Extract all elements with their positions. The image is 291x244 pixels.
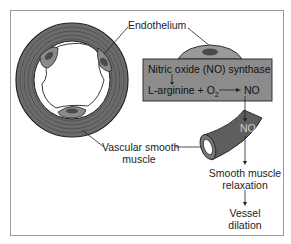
no-on-muscle-label: NO (240, 122, 256, 134)
dilation-label: Vessel dilation (215, 207, 275, 231)
reaction-product: NO (244, 84, 260, 96)
endothelium-label: Endothelium (128, 19, 186, 31)
reaction-reactants: L-arginine + O (148, 84, 215, 96)
vessel-cross-section (16, 23, 128, 137)
vascular-line2: muscle (102, 153, 176, 165)
vascular-line1: Vascular smooth (102, 141, 176, 153)
relax-line1: Smooth muscle (205, 167, 285, 179)
relaxation-label: Smooth muscle relaxation (205, 167, 285, 191)
cell-nucleus (202, 49, 218, 56)
smooth-muscle-tube (197, 110, 262, 162)
relax-line2: relaxation (205, 179, 285, 191)
dilation-line2: dilation (215, 219, 275, 231)
dilation-line1: Vessel (215, 207, 275, 219)
reaction-label: L-arginine + O2 (148, 84, 219, 101)
synthase-label: Nitric oxide (NO) synthase (148, 63, 271, 75)
endothelium-leader-right (188, 28, 210, 46)
reaction-subscript: 2 (215, 91, 219, 98)
vascular-smooth-muscle-label: Vascular smooth muscle (102, 141, 176, 165)
